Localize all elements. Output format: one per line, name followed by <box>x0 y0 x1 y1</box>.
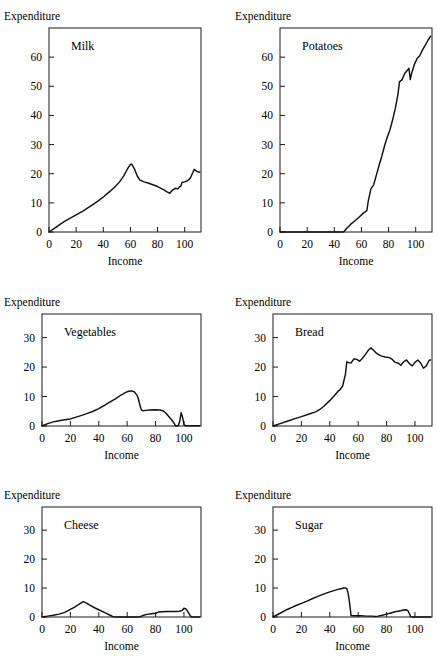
x-tick-label: 60 <box>356 238 368 250</box>
y-tick-label: 30 <box>24 332 36 344</box>
y-tick-label: 0 <box>260 611 266 623</box>
x-tick-label: 80 <box>381 432 393 444</box>
data-curve <box>42 391 200 426</box>
y-tick-label: 0 <box>36 226 42 238</box>
y-tick-label: 20 <box>255 553 267 565</box>
x-tick-label: 40 <box>98 238 110 250</box>
x-tick-label: 0 <box>270 623 276 635</box>
panel-title: Bread <box>295 325 324 339</box>
y-tick-label: 50 <box>31 80 43 92</box>
x-tick-label: 100 <box>406 432 424 444</box>
y-axis-title: Expenditure <box>4 489 60 502</box>
x-tick-label: 20 <box>70 238 82 250</box>
x-tick-label: 0 <box>39 432 45 444</box>
x-tick-label: 0 <box>270 432 276 444</box>
y-axis-title: Expenditure <box>235 489 291 502</box>
x-tick-label: 100 <box>407 238 425 250</box>
y-tick-label: 20 <box>255 361 267 373</box>
y-tick-label: 30 <box>255 332 267 344</box>
y-tick-label: 30 <box>255 524 267 536</box>
x-tick-label: 0 <box>39 623 45 635</box>
x-tick-label: 80 <box>152 238 164 250</box>
x-tick-label: 20 <box>65 432 77 444</box>
y-axis-title: Expenditure <box>235 296 291 309</box>
x-tick-label: 100 <box>175 432 193 444</box>
panel-title: Potatoes <box>302 39 343 53</box>
chart-panel-bread: Expenditure0102030020406080100IncomeBrea… <box>233 290 437 480</box>
panel-title: Sugar <box>295 518 323 532</box>
chart-panel-vegetables: Expenditure0102030020406080100IncomeVege… <box>2 290 212 480</box>
x-tick-label: 40 <box>324 623 336 635</box>
x-tick-label: 80 <box>150 432 162 444</box>
x-axis-title: Income <box>104 640 138 652</box>
y-tick-label: 0 <box>29 420 35 432</box>
x-tick-label: 0 <box>277 238 283 250</box>
y-tick-label: 10 <box>262 197 274 209</box>
x-tick-label: 60 <box>352 623 364 635</box>
y-tick-label: 20 <box>262 168 274 180</box>
y-tick-label: 20 <box>31 168 43 180</box>
x-axis-title: Income <box>104 449 138 461</box>
x-tick-label: 80 <box>383 238 395 250</box>
chart-panel-cheese: Expenditure0102030020406080100IncomeChee… <box>2 483 212 661</box>
y-axis-title: Expenditure <box>235 10 291 23</box>
y-tick-label: 50 <box>262 80 274 92</box>
data-curve <box>49 164 200 232</box>
panel-title: Milk <box>71 39 94 53</box>
engel-curves-figure: Expenditure0102030405060020406080100Inco… <box>0 0 437 661</box>
x-tick-label: 20 <box>301 238 313 250</box>
x-tick-label: 40 <box>93 432 105 444</box>
y-tick-label: 0 <box>267 226 273 238</box>
x-axis-title: Income <box>335 640 369 652</box>
x-tick-label: 100 <box>175 623 193 635</box>
y-axis-title: Expenditure <box>4 296 60 309</box>
x-axis-title: Income <box>108 255 142 267</box>
y-tick-label: 40 <box>31 109 43 121</box>
chart-panel-potatoes: Expenditure0102030405060020406080100Inco… <box>233 4 437 286</box>
y-tick-label: 30 <box>31 139 43 151</box>
y-tick-label: 0 <box>260 420 266 432</box>
data-curve <box>280 36 431 232</box>
x-tick-label: 100 <box>176 238 194 250</box>
x-tick-label: 80 <box>381 623 393 635</box>
chart-panel-milk: Expenditure0102030405060020406080100Inco… <box>2 4 212 286</box>
y-tick-label: 60 <box>262 51 274 63</box>
x-axis-title: Income <box>335 449 369 461</box>
x-tick-label: 20 <box>296 432 308 444</box>
data-curve <box>273 588 431 617</box>
y-tick-label: 20 <box>24 361 36 373</box>
x-tick-label: 20 <box>65 623 77 635</box>
y-tick-label: 10 <box>31 197 43 209</box>
y-tick-label: 60 <box>31 51 43 63</box>
y-tick-label: 20 <box>24 553 36 565</box>
x-tick-label: 40 <box>324 432 336 444</box>
plot-frame <box>280 28 432 232</box>
data-curve <box>273 348 431 426</box>
x-tick-label: 0 <box>46 238 52 250</box>
x-tick-label: 40 <box>93 623 105 635</box>
y-tick-label: 30 <box>24 524 36 536</box>
chart-panel-sugar: Expenditure0102030020406080100IncomeSuga… <box>233 483 437 661</box>
y-tick-label: 10 <box>255 391 267 403</box>
x-tick-label: 100 <box>406 623 424 635</box>
data-curve <box>42 602 200 617</box>
y-tick-label: 10 <box>255 582 267 594</box>
y-tick-label: 30 <box>262 139 274 151</box>
y-tick-label: 0 <box>29 611 35 623</box>
y-tick-label: 10 <box>24 391 36 403</box>
x-axis-title: Income <box>339 255 373 267</box>
panel-title: Vegetables <box>64 325 116 339</box>
x-tick-label: 60 <box>125 238 137 250</box>
y-tick-label: 40 <box>262 109 274 121</box>
x-tick-label: 20 <box>296 623 308 635</box>
y-tick-label: 10 <box>24 582 36 594</box>
x-tick-label: 80 <box>150 623 162 635</box>
plot-frame <box>49 28 201 232</box>
x-tick-label: 40 <box>329 238 341 250</box>
x-tick-label: 60 <box>121 623 133 635</box>
panel-title: Cheese <box>64 518 99 532</box>
x-tick-label: 60 <box>352 432 364 444</box>
x-tick-label: 60 <box>121 432 133 444</box>
y-axis-title: Expenditure <box>4 10 60 23</box>
